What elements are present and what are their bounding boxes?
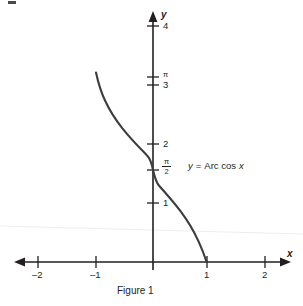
y-tick-label-3: 3 xyxy=(163,80,168,90)
equation-equals: = xyxy=(196,160,202,171)
pi-over-2-numerator: π xyxy=(162,158,171,166)
y-tick-label-pi-over-2: π 2 xyxy=(162,158,171,176)
x-tick-label--2: –2 xyxy=(32,270,43,280)
x-axis-name-label: x xyxy=(287,249,293,259)
equation-variable: x xyxy=(239,160,244,171)
x-axis-left-arrowhead xyxy=(14,258,25,267)
figure-caption: Figure 1 xyxy=(117,285,154,296)
y-tick-label-1: 1 xyxy=(163,198,168,208)
equation-lhs: y xyxy=(188,160,193,171)
x-tick-label-2: 2 xyxy=(262,270,267,280)
scan-artifact-line xyxy=(0,226,303,234)
figure-arccos: –2 –1 1 2 1 2 3 4 π π 2 y x y=Arc cosx F… xyxy=(0,0,303,306)
plot-canvas xyxy=(0,0,303,306)
equation-annotation: y=Arc cosx xyxy=(188,160,244,171)
y-tick-label-2: 2 xyxy=(163,139,168,149)
pi-over-2-denominator: 2 xyxy=(162,168,171,176)
y-axis-name-label: y xyxy=(161,10,167,20)
y-tick-label-4: 4 xyxy=(163,21,168,31)
equation-function: Arc cos xyxy=(204,160,236,171)
x-tick-label--1: –1 xyxy=(90,270,101,280)
corner-speck-artifact xyxy=(8,1,16,4)
y-axis-arrowhead xyxy=(149,11,158,22)
y-tick-label-pi: π xyxy=(163,71,168,79)
x-tick-label-1: 1 xyxy=(204,270,209,280)
